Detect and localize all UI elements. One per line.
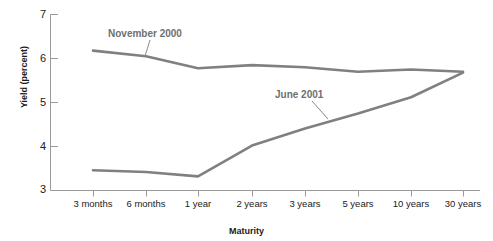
leader-line-june-2001 [312,101,328,119]
yield-curve-chart: Yield (percent) Maturity 7 6 5 4 3 3 mon… [0,0,493,241]
axis-lines [51,15,481,191]
series-line-november-2000 [93,51,463,72]
series-line-june-2001 [93,73,463,177]
leader-line-november-2000 [145,40,150,56]
chart-plot-area [0,0,493,241]
y-axis-ticks [51,15,59,147]
x-axis-ticks [94,191,464,197]
